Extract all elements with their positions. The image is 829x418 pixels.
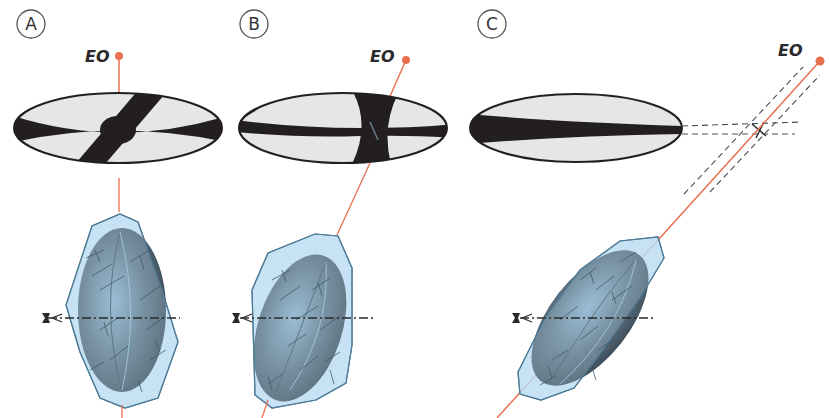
optic-axis-point-c: [816, 57, 825, 66]
eo-label-b: EO: [370, 47, 395, 66]
projection-lines-c: [682, 67, 820, 194]
melatope-mark-c: [752, 122, 766, 138]
svg-text:B: B: [248, 14, 260, 34]
optic-axis-point-a: [115, 52, 123, 60]
panel-c-label: C: [478, 10, 506, 38]
optic-axis-diagram: A EO: [0, 0, 829, 418]
svg-text:A: A: [25, 14, 37, 34]
interference-figure-c: [468, 94, 682, 162]
optic-axis-point-b: [402, 56, 410, 64]
svg-text:C: C: [486, 14, 498, 34]
panel-a-label: A: [17, 10, 45, 38]
panel-b: B EO: [232, 10, 455, 418]
panel-a: A EO: [10, 10, 230, 418]
interference-figure-b: [235, 90, 455, 168]
eo-label-c: EO: [778, 41, 803, 60]
interference-figure-a: [10, 88, 230, 170]
crystal-a: [66, 214, 178, 408]
panel-c: C EO: [468, 10, 825, 418]
crystal-b: [237, 234, 364, 413]
panel-b-label: B: [240, 10, 268, 38]
eo-label-a: EO: [85, 47, 110, 66]
optic-axis-b-lower: [337, 163, 370, 235]
